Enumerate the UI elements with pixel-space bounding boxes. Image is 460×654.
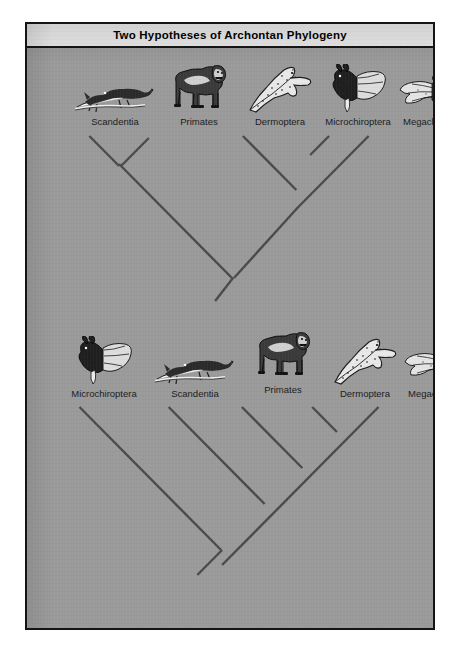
- page-title: Two Hypotheses of Archontan Phylogeny: [113, 29, 347, 41]
- taxon-megachiroptera-top: Megachiroptera: [376, 64, 435, 127]
- taxon-label: Megachiroptera: [381, 388, 435, 399]
- hypothesis-two-panel: Microchiroptera: [27, 318, 433, 628]
- hypothesis-one-panel: Scandentia: [27, 48, 433, 318]
- megabat-icon: [381, 336, 435, 388]
- taxon-megachiroptera-bottom: Megachiroptera: [381, 336, 435, 399]
- taxon-label: Megachiroptera: [376, 116, 435, 127]
- figure-frame: Two Hypotheses of Archontan Phylogeny: [25, 22, 435, 630]
- figure-title-bar: Two Hypotheses of Archontan Phylogeny: [27, 24, 433, 48]
- megabat-icon: [376, 64, 435, 116]
